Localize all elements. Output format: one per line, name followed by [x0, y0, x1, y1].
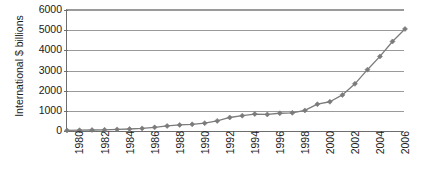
data-point-marker — [302, 108, 307, 113]
data-point-marker — [240, 113, 245, 118]
y-tick-label: 3000 — [26, 64, 62, 76]
x-tick-label: 1984 — [124, 131, 136, 171]
y-tick-label: 6000 — [26, 3, 62, 15]
data-point-marker — [327, 99, 332, 104]
plot-area — [66, 9, 404, 130]
data-point-marker — [227, 115, 232, 120]
data-point-marker — [290, 110, 295, 115]
x-tick-label: 1998 — [299, 131, 311, 171]
x-tick-label: 2000 — [324, 131, 336, 171]
x-tick-label: 2002 — [349, 131, 361, 171]
data-point-marker — [215, 118, 220, 123]
line-chart: International $ billions 600050004000300… — [0, 0, 421, 182]
x-tick-label: 1996 — [274, 131, 286, 171]
data-point-marker — [265, 112, 270, 117]
data-point-marker — [252, 112, 257, 117]
data-point-marker — [177, 122, 182, 127]
data-point-marker — [202, 121, 207, 126]
x-tick-label: 1980 — [73, 131, 85, 171]
x-tick-label: 1990 — [199, 131, 211, 171]
data-point-marker — [277, 111, 282, 116]
x-tick-label: 1992 — [224, 131, 236, 171]
x-tick-label: 2006 — [399, 131, 411, 171]
x-tick-label: 1988 — [174, 131, 186, 171]
x-tick-label: 1982 — [99, 131, 111, 171]
y-tick-label: 2000 — [26, 84, 62, 96]
y-axis-title: International $ billions — [13, 1, 25, 131]
data-point-marker — [190, 122, 195, 127]
x-tick-label: 1986 — [149, 131, 161, 171]
data-point-marker — [315, 102, 320, 107]
y-tick-label: 1000 — [26, 104, 62, 116]
y-tick-label: 5000 — [26, 23, 62, 35]
x-tick-label: 2004 — [374, 131, 386, 171]
y-tick-label: 4000 — [26, 43, 62, 55]
data-point-marker — [152, 125, 157, 130]
data-point-marker — [165, 123, 170, 128]
series-polyline — [67, 29, 405, 130]
x-tick-label: 1994 — [249, 131, 261, 171]
x-axis-tick-labels: 1980198219841986198819901992199419961998… — [0, 131, 421, 182]
data-series-line — [67, 10, 405, 131]
